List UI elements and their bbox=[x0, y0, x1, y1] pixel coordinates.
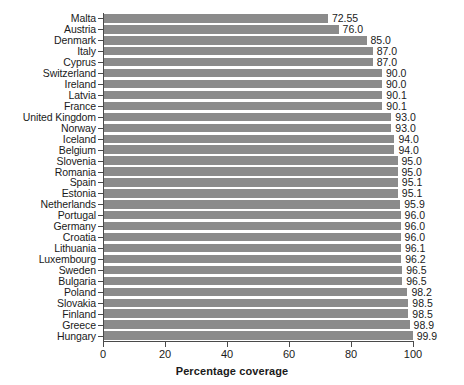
bar bbox=[103, 145, 394, 153]
x-axis-tick bbox=[413, 342, 414, 347]
bar bbox=[103, 233, 401, 241]
bar bbox=[103, 244, 401, 252]
bar bbox=[103, 255, 401, 263]
x-axis-tick bbox=[227, 342, 228, 347]
bar bbox=[103, 277, 402, 285]
bar bbox=[103, 69, 382, 77]
x-axis-tick-label: 40 bbox=[207, 348, 247, 360]
bar bbox=[103, 36, 367, 44]
bar bbox=[103, 189, 398, 197]
x-axis-tick-label: 20 bbox=[145, 348, 185, 360]
bar bbox=[103, 222, 401, 230]
bar bbox=[103, 47, 373, 55]
x-axis-tick bbox=[289, 342, 290, 347]
bar bbox=[103, 58, 373, 66]
plot-area: Malta72.55Austria76.0Denmark85.0Italy87.… bbox=[0, 0, 464, 385]
bar bbox=[103, 80, 382, 88]
bar-chart: Malta72.55Austria76.0Denmark85.0Italy87.… bbox=[0, 0, 464, 385]
x-axis-line bbox=[103, 341, 414, 342]
x-axis-tick-label: 60 bbox=[269, 348, 309, 360]
bar bbox=[103, 113, 391, 121]
x-axis-tick-label: 80 bbox=[331, 348, 371, 360]
bar-value-label: 99.9 bbox=[413, 330, 437, 341]
bar bbox=[103, 266, 402, 274]
x-axis-tick-label: 100 bbox=[393, 348, 433, 360]
x-axis-tick-label: 0 bbox=[83, 348, 123, 360]
bar bbox=[103, 309, 408, 317]
bar bbox=[103, 124, 391, 132]
bar bbox=[103, 25, 339, 33]
bar-value-label: 76.0 bbox=[339, 24, 363, 35]
bar bbox=[103, 211, 401, 219]
bar bbox=[103, 91, 382, 99]
x-axis-tick bbox=[103, 342, 104, 347]
bar bbox=[103, 14, 328, 22]
bar bbox=[103, 178, 398, 186]
bar bbox=[103, 320, 410, 328]
bar bbox=[103, 167, 398, 175]
bar-row: Hungary99.9 bbox=[0, 330, 464, 341]
x-axis-tick bbox=[351, 342, 352, 347]
bar bbox=[103, 299, 408, 307]
bar bbox=[103, 288, 407, 296]
category-label: Hungary bbox=[0, 330, 96, 341]
bar bbox=[103, 156, 398, 164]
x-axis-title: Percentage coverage bbox=[0, 365, 464, 377]
bar bbox=[103, 200, 400, 208]
bar bbox=[103, 331, 413, 339]
bar bbox=[103, 135, 394, 143]
bar bbox=[103, 102, 382, 110]
x-axis-tick bbox=[165, 342, 166, 347]
y-axis-line bbox=[103, 13, 104, 341]
